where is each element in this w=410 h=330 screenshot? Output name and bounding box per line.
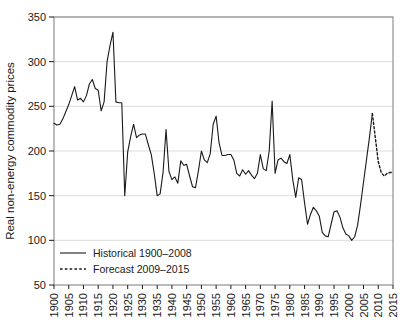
x-axis-tick-label: 1925	[122, 293, 134, 317]
x-axis-tick-label: 2005	[358, 293, 370, 317]
y-axis-tick-label: 350	[28, 11, 46, 23]
x-axis-tick-label: 2000	[343, 293, 355, 317]
y-axis-tick-label: 200	[28, 145, 46, 157]
x-axis-tick-label: 1915	[92, 293, 104, 317]
legend-label-historical: Historical 1900–2008	[93, 247, 192, 259]
x-axis-tick-label: 1930	[136, 293, 148, 317]
x-axis-tick-label: 1970	[254, 293, 266, 317]
legend-label-forecast: Forecast 2009–2015	[93, 263, 189, 275]
x-axis-tick-label: 1905	[63, 293, 75, 317]
x-axis-tick-label: 1920	[107, 293, 119, 317]
x-axis-tick-label: 2010	[372, 293, 384, 317]
chart-container: 50100150200250300350 1900190519101915192…	[0, 0, 410, 330]
x-axis-tick-label: 1900	[48, 293, 60, 317]
x-axis-tick-label: 1910	[77, 293, 89, 317]
x-axis-tick-label: 1955	[210, 293, 222, 317]
x-axis-tick-label: 1945	[181, 293, 193, 317]
y-axis-tick-label: 50	[34, 279, 46, 291]
x-axis-tick-label: 1940	[166, 293, 178, 317]
x-axis-tick-label: 1950	[195, 293, 207, 317]
y-axis-label: Real non-energy commodity prices	[4, 62, 16, 240]
chart-background	[0, 0, 410, 330]
x-axis-tick-label: 2015	[387, 293, 399, 317]
commodity-price-line-chart: 50100150200250300350 1900190519101915192…	[0, 0, 410, 330]
x-axis-tick-label: 1980	[284, 293, 296, 317]
x-axis-tick-label: 1960	[225, 293, 237, 317]
x-axis-tick-label: 1990	[313, 293, 325, 317]
y-axis-tick-label: 300	[28, 56, 46, 68]
x-axis-tick-label: 1985	[299, 293, 311, 317]
y-axis-tick-label: 100	[28, 234, 46, 246]
y-axis-tick-label: 150	[28, 190, 46, 202]
x-axis-tick-label: 1995	[328, 293, 340, 317]
x-axis-tick-label: 1935	[151, 293, 163, 317]
x-axis-tick-label: 1975	[269, 293, 281, 317]
x-axis-tick-label: 1965	[240, 293, 252, 317]
y-axis-tick-label: 250	[28, 100, 46, 112]
